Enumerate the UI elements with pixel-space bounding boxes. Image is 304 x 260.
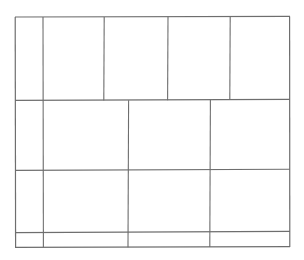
figure-canvas <box>0 0 304 260</box>
rectangle-partition-figure <box>0 0 304 260</box>
figure-background <box>0 0 304 260</box>
lower-divider-f <box>210 100 211 247</box>
outer-top-edge <box>15 16 290 17</box>
lower-divider-e <box>128 100 129 247</box>
